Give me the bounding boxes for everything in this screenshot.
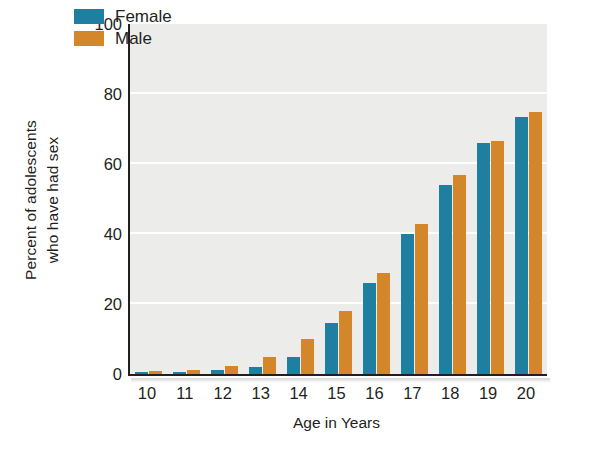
x-axis-tick-label: 15 (317, 384, 357, 403)
y-axis-title-line-1: Percent of adolescents (22, 120, 40, 280)
x-axis-tick-label: 17 (392, 384, 432, 403)
bar-male-age-15 (339, 311, 352, 374)
bar-group (509, 24, 547, 374)
x-axis-tick-label: 13 (241, 384, 281, 403)
bar-male-age-11 (187, 370, 200, 374)
bar-chart-figure: Percent of adolescents who have had sex … (0, 0, 606, 463)
bar-group (471, 24, 509, 374)
y-axis-tick-labels: 020406080100 (76, 0, 122, 463)
x-axis-tick-label: 14 (279, 384, 319, 403)
bar-female-age-16 (363, 283, 376, 374)
bar-male-age-18 (453, 175, 466, 375)
bar-group (282, 24, 320, 374)
bar-series-container (130, 24, 547, 374)
x-axis-tick-label: 10 (127, 384, 167, 403)
bar-group (395, 24, 433, 374)
x-axis-tick-label: 20 (506, 384, 546, 403)
bar-group (244, 24, 282, 374)
bar-female-age-12 (211, 370, 224, 374)
bar-male-age-12 (225, 366, 238, 374)
bar-group (433, 24, 471, 374)
bar-group (130, 24, 168, 374)
y-axis-tick-label: 0 (76, 366, 122, 382)
bar-male-age-17 (415, 224, 428, 375)
x-axis-tick-label: 16 (354, 384, 394, 403)
bar-group (320, 24, 358, 374)
bar-female-age-17 (401, 234, 414, 374)
bar-female-age-18 (439, 185, 452, 374)
bar-group (206, 24, 244, 374)
x-axis-tick-label: 18 (430, 384, 470, 403)
legend-swatch-male (74, 31, 104, 46)
bar-male-age-13 (263, 357, 276, 375)
x-axis-tick-label: 11 (165, 384, 205, 403)
bar-female-age-11 (173, 372, 186, 374)
bar-female-age-13 (249, 367, 262, 374)
bar-male-age-19 (491, 141, 504, 374)
bar-group (168, 24, 206, 374)
y-axis-title: Percent of adolescents who have had sex (8, 24, 72, 376)
bar-male-age-14 (301, 339, 314, 374)
bar-female-age-15 (325, 323, 338, 374)
legend-label: Male (115, 31, 152, 46)
legend-label: Female (115, 9, 172, 24)
bar-group (357, 24, 395, 374)
y-axis-tick-label: 40 (76, 226, 122, 242)
y-axis-title-line-2: who have had sex (44, 137, 62, 264)
legend-item-female: Female (74, 9, 172, 24)
bar-female-age-10 (135, 372, 148, 374)
plot-area (128, 24, 547, 376)
y-axis-tick-label: 80 (76, 86, 122, 102)
x-axis-title: Age in Years (128, 414, 545, 432)
x-axis-tick-labels: 1011121314151617181920 (128, 384, 545, 408)
legend-swatch-female (74, 9, 104, 24)
x-axis-tick-label: 19 (468, 384, 508, 403)
y-axis-tick-label: 20 (76, 296, 122, 312)
chart-legend: FemaleMale (74, 9, 172, 46)
bar-female-age-19 (477, 143, 490, 374)
bar-male-age-10 (149, 371, 162, 375)
y-axis-tick-label: 60 (76, 156, 122, 172)
bar-male-age-20 (529, 112, 542, 375)
legend-item-male: Male (74, 31, 172, 46)
bar-female-age-20 (515, 117, 528, 374)
bar-male-age-16 (377, 273, 390, 375)
bar-female-age-14 (287, 357, 300, 375)
plot-shadow (131, 378, 550, 383)
x-axis-tick-label: 12 (203, 384, 243, 403)
